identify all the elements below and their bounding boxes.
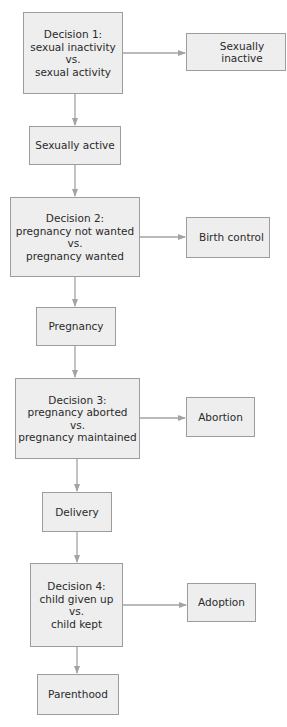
- outcome-birth-control-label: Birth control: [199, 231, 264, 244]
- decision-3-box: Decision 3: pregnancy aborted vs. pregna…: [15, 378, 140, 459]
- outcome-sexually-inactive-label: Sexually inactive: [199, 40, 285, 65]
- state-delivery: Delivery: [42, 492, 112, 532]
- decision-1-option-b: sexual activity: [35, 66, 111, 79]
- state-sexually-active-label: Sexually active: [35, 139, 115, 152]
- outcome-abortion: Abortion: [186, 397, 255, 437]
- decision-4-option-b: child kept: [51, 618, 102, 631]
- decision-1-box: Decision 1: sexual inactivity vs. sexual…: [23, 12, 123, 94]
- decision-flowchart: Decision 1: sexual inactivity vs. sexual…: [0, 0, 287, 727]
- decision-4-box: Decision 4: child given up vs. child kep…: [30, 563, 123, 647]
- decision-3-vs: vs.: [70, 419, 85, 432]
- decision-2-option-a: pregnancy not wanted: [16, 225, 134, 238]
- state-sexually-active: Sexually active: [29, 126, 121, 165]
- decision-4-vs: vs.: [69, 605, 84, 618]
- state-parenthood-label: Parenthood: [48, 688, 108, 701]
- state-delivery-label: Delivery: [55, 506, 99, 519]
- state-pregnancy-label: Pregnancy: [48, 320, 103, 333]
- decision-1-title: Decision 1:: [44, 28, 102, 41]
- decision-2-title: Decision 2:: [46, 212, 104, 225]
- outcome-adoption: Adoption: [187, 583, 256, 622]
- decision-4-option-a: child given up: [40, 593, 114, 606]
- decision-2-box: Decision 2: pregnancy not wanted vs. pre…: [10, 197, 140, 277]
- outcome-sexually-inactive: Sexually inactive: [186, 33, 286, 71]
- decision-1-option-a: sexual inactivity: [30, 41, 116, 54]
- decision-3-title: Decision 3:: [48, 394, 106, 407]
- decision-2-option-b: pregnancy wanted: [26, 250, 124, 263]
- outcome-adoption-label: Adoption: [198, 596, 245, 609]
- decision-2-vs: vs.: [67, 237, 82, 250]
- state-parenthood: Parenthood: [37, 674, 119, 715]
- outcome-birth-control: Birth control: [186, 217, 270, 258]
- state-pregnancy: Pregnancy: [36, 307, 116, 346]
- decision-4-title: Decision 4:: [47, 580, 105, 593]
- decision-3-option-b: pregnancy maintained: [18, 431, 136, 444]
- outcome-abortion-label: Abortion: [198, 411, 243, 424]
- decision-3-option-a: pregnancy aborted: [27, 406, 127, 419]
- decision-1-vs: vs.: [65, 53, 80, 66]
